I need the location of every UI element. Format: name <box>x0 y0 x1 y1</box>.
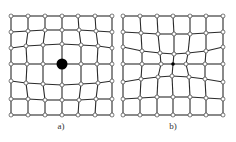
grid-node <box>94 97 98 101</box>
grid-edge <box>97 46 98 64</box>
grid-node <box>9 46 13 50</box>
grid-edge <box>62 44 81 45</box>
grid-node <box>138 113 142 117</box>
grid-node <box>26 14 30 18</box>
grid-node <box>77 98 81 102</box>
grid-node <box>186 51 190 55</box>
grid-node <box>121 30 125 34</box>
grid-edge <box>190 97 206 98</box>
grid-node <box>9 79 13 83</box>
grid-node <box>93 113 97 117</box>
grid-edge <box>158 34 160 53</box>
grid-edge <box>188 51 206 53</box>
grid-edge <box>79 99 96 100</box>
grid-node <box>139 31 143 35</box>
grid-node <box>43 28 47 32</box>
grid-node <box>204 49 208 53</box>
grid-node <box>187 75 191 79</box>
grid-edge <box>43 84 45 100</box>
grid-node <box>139 77 143 81</box>
grid-edge <box>140 16 141 33</box>
grid-edge <box>95 99 96 115</box>
grid-edge <box>206 32 223 33</box>
grid-node <box>170 74 174 78</box>
grid-node <box>93 14 97 18</box>
grid-edge <box>141 77 158 79</box>
grid-node <box>60 98 64 102</box>
panel-b-label: b) <box>169 121 177 131</box>
grid-node <box>121 14 125 18</box>
grid-node <box>110 79 114 83</box>
grid-node <box>60 113 64 117</box>
grid-node <box>79 43 83 47</box>
grid-edge <box>157 16 158 34</box>
grid-edge <box>26 46 27 64</box>
grid-edge <box>62 84 81 85</box>
center-point <box>171 62 175 66</box>
grid-node <box>60 83 64 87</box>
grid-node <box>60 14 64 18</box>
grid-node <box>158 51 162 55</box>
grid-node <box>26 29 30 33</box>
grid-node <box>9 97 13 101</box>
grid-node <box>156 32 160 36</box>
grid-edge <box>123 32 141 33</box>
grid-edge <box>142 51 160 53</box>
grid-node <box>110 62 114 66</box>
grid-node <box>121 113 125 117</box>
grid-edge <box>173 16 174 34</box>
grid-edge <box>172 76 173 97</box>
grid-node <box>76 14 80 18</box>
grid-node <box>9 14 13 18</box>
grid-node <box>138 14 142 18</box>
grid-node <box>43 98 47 102</box>
grid-node <box>171 14 175 18</box>
grid-node <box>77 28 81 32</box>
grid-node <box>156 75 160 79</box>
grid-node <box>221 45 225 49</box>
panel-a-grid <box>9 14 114 117</box>
grid-edge <box>96 83 98 99</box>
grid-edge <box>43 84 62 85</box>
grid-edge <box>205 79 206 98</box>
grid-node <box>25 62 29 66</box>
grid-node <box>79 62 83 66</box>
grid-node <box>24 44 28 48</box>
grid-edge <box>28 30 45 31</box>
grid-node <box>43 113 47 117</box>
grid-node <box>95 62 99 66</box>
grid-node <box>60 28 64 32</box>
grid-edge <box>96 31 112 32</box>
grid-node <box>41 62 45 66</box>
grid-edge <box>123 47 142 51</box>
grid-node <box>188 113 192 117</box>
grid-edge <box>79 30 96 31</box>
grid-node <box>155 95 159 99</box>
grid-edge <box>172 76 189 77</box>
grid-node <box>96 81 100 85</box>
grid-edge <box>157 77 158 97</box>
grid-edge <box>97 64 98 83</box>
grid-node <box>110 30 114 34</box>
grid-edge <box>140 79 141 98</box>
grid-edge <box>141 33 142 51</box>
grid-edge <box>123 98 140 99</box>
grid-node <box>26 97 30 101</box>
grid-node <box>184 62 188 66</box>
grid-edge <box>141 33 158 34</box>
grid-node <box>221 30 225 34</box>
grid-edge <box>26 83 28 99</box>
grid-node <box>96 44 100 48</box>
center-point <box>57 59 68 70</box>
grid-node <box>188 95 192 99</box>
grid-edge <box>206 98 223 99</box>
grid-node <box>41 82 45 86</box>
grid-node <box>110 46 114 50</box>
grid-node <box>9 30 13 34</box>
grid-edge <box>205 79 223 82</box>
grid-node <box>9 113 13 117</box>
grid-node <box>24 81 28 85</box>
grid-node <box>121 45 125 49</box>
grid-node <box>155 14 159 18</box>
grid-edge <box>206 47 223 51</box>
